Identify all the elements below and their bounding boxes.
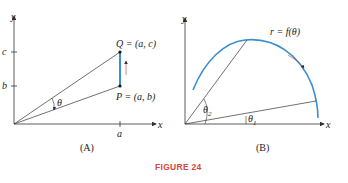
caption-a: (A): [80, 142, 94, 153]
point-p-label: P = (a, b): [115, 91, 156, 103]
point-q-label: Q = (a, c): [116, 38, 157, 50]
panel-b: y x r = f(θ) θ2 θ1: [181, 13, 331, 130]
ray-theta2: [185, 40, 247, 124]
tick-a-label: a: [117, 128, 122, 139]
caption-b: (B): [256, 142, 269, 153]
point-p: [118, 84, 121, 87]
x-axis-label: x: [325, 119, 331, 130]
y-axis-label: y: [181, 13, 187, 24]
theta2-label: θ2: [203, 104, 212, 118]
figure-canvas: θ y x c b a Q = (a, c) P = (a, b) y x r …: [0, 0, 348, 183]
x-axis-label: x: [157, 119, 163, 130]
angle-theta-label: θ: [57, 97, 62, 108]
angle-arc: [52, 98, 54, 110]
ray-op: [14, 86, 120, 124]
curve-label: r = f(θ): [270, 26, 301, 38]
polar-curve: [193, 40, 318, 118]
panel-a: θ y x c b a Q = (a, c) P = (a, b): [2, 11, 163, 139]
y-axis-label: y: [10, 11, 16, 22]
point-q: [118, 50, 121, 53]
ray-oq: [14, 52, 120, 124]
figure-label: FIGURE 24: [155, 162, 202, 172]
theta1-label: θ1: [248, 113, 256, 127]
tick-b-label: b: [2, 80, 7, 91]
tick-c-label: c: [2, 46, 7, 57]
